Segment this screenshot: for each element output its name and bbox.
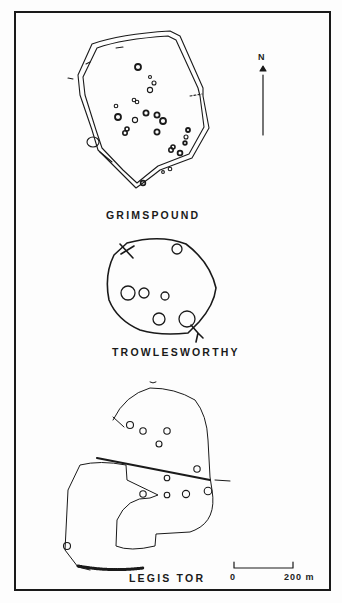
scale-bar	[234, 562, 293, 568]
site-plans	[0, 0, 342, 603]
scale-start-label: 0	[230, 572, 236, 582]
site-label-legis-tor: LEGIS TOR	[129, 572, 205, 584]
site-label-grimspound: GRIMSPOUND	[106, 209, 200, 221]
north-label: N	[258, 52, 265, 62]
scale-end-label: 200 m	[284, 572, 315, 582]
legis-tor-plan	[65, 382, 230, 570]
site-label-trowlesworthy: TROWLESWORTHY	[112, 346, 240, 358]
grimspound-plan	[68, 31, 209, 188]
trowlesworthy-plan	[107, 239, 216, 342]
north-arrow-icon	[260, 66, 266, 135]
grimspound-huts	[114, 64, 190, 185]
